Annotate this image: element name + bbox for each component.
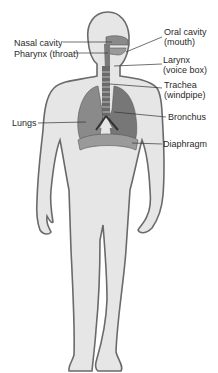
label-oral-cavity-line2: (mouth)	[164, 37, 195, 47]
label-trachea-line2: (windpipe)	[164, 90, 206, 100]
label-trachea-line1: Trachea	[164, 80, 197, 90]
label-diaphragm: Diaphragm	[163, 139, 207, 149]
label-larynx-line2: (voice box)	[163, 65, 207, 75]
label-oral-cavity-line1: Oral cavity	[164, 27, 207, 37]
label-nasal-cavity: Nasal cavity	[14, 38, 63, 48]
label-larynx-line1: Larynx	[163, 55, 190, 65]
label-pharynx: Pharynx (throat)	[14, 49, 79, 59]
respiratory-diagram: Nasal cavity Pharynx (throat) Oral cavit…	[0, 0, 218, 373]
label-lungs: Lungs	[12, 118, 37, 128]
body-silhouette	[37, 12, 165, 371]
label-bronchus: Bronchus	[168, 112, 206, 122]
